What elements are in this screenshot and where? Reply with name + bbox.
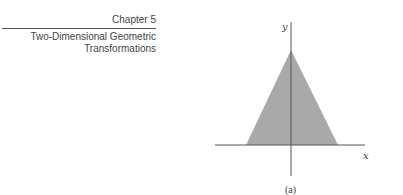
x-axis-label: x <box>363 150 369 161</box>
triangle-shape <box>246 50 338 145</box>
figure-triangle-axes: y x (a) <box>0 0 403 195</box>
figure-caption: (a) <box>285 184 296 195</box>
y-axis-label: y <box>281 21 288 32</box>
